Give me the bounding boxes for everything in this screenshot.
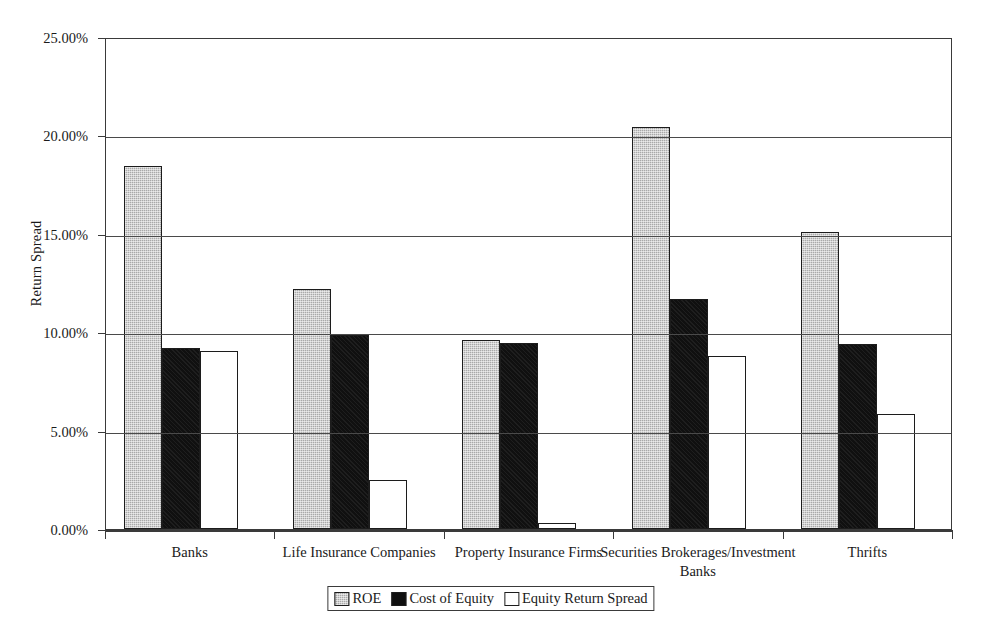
y-axis-tick-label: 15.00% [0, 228, 88, 243]
legend-swatch-coe [391, 592, 406, 606]
x-axis-category-label: Thrifts [760, 543, 975, 562]
bar-coe[interactable] [162, 348, 200, 529]
plot-area [105, 38, 952, 530]
x-axis-tick-mark [105, 530, 106, 539]
y-axis-tick-label: 25.00% [0, 31, 88, 46]
bar-group [445, 39, 614, 529]
gridline [106, 433, 951, 434]
y-axis-tick-label: 10.00% [0, 326, 88, 341]
bar-roe[interactable] [462, 340, 500, 529]
bar-roe[interactable] [124, 166, 162, 529]
bar-group [275, 39, 444, 529]
bar-spread[interactable] [708, 356, 746, 529]
bar-spread[interactable] [877, 414, 915, 529]
bar-spread[interactable] [200, 351, 238, 529]
chart-legend: ROECost of EquityEquity Return Spread [327, 586, 654, 611]
bar-coe[interactable] [839, 344, 877, 529]
legend-item-roe[interactable]: ROE [334, 590, 381, 607]
bar-group [106, 39, 275, 529]
bar-coe[interactable] [500, 343, 538, 529]
x-axis-tick-mark [952, 530, 953, 539]
bar-group [614, 39, 783, 529]
bar-group [784, 39, 953, 529]
bar-roe[interactable] [801, 232, 839, 529]
bar-chart: Return Spread 0.00%5.00%10.00%15.00%20.0… [0, 0, 982, 640]
legend-swatch-spread [504, 592, 519, 606]
bar-spread[interactable] [538, 523, 576, 529]
bar-roe[interactable] [632, 127, 670, 529]
gridline [106, 137, 951, 138]
x-axis-line [105, 530, 952, 532]
bars-layer [106, 39, 951, 529]
x-axis-tick-mark [274, 530, 275, 539]
x-axis-tick-mark [444, 530, 445, 539]
legend-label: Equity Return Spread [522, 590, 648, 607]
bar-roe[interactable] [293, 289, 331, 529]
y-axis-tick-label: 0.00% [0, 523, 88, 538]
legend-item-spread[interactable]: Equity Return Spread [504, 590, 648, 607]
gridline [106, 334, 951, 335]
legend-swatch-roe [334, 592, 349, 606]
y-axis-tick-label: 20.00% [0, 129, 88, 144]
legend-label: Cost of Equity [409, 590, 494, 607]
legend-item-coe[interactable]: Cost of Equity [391, 590, 494, 607]
legend-label: ROE [352, 590, 381, 607]
x-axis-tick-mark [783, 530, 784, 539]
bar-spread[interactable] [369, 480, 407, 529]
y-axis-tick-label: 5.00% [0, 425, 88, 440]
gridline [106, 236, 951, 237]
x-axis-tick-mark [613, 530, 614, 539]
